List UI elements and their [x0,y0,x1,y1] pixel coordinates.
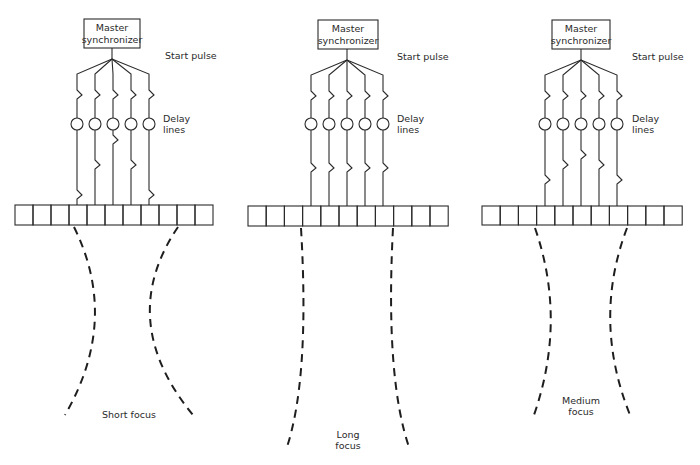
channel-lower-line [95,130,100,205]
delay-line-circle [377,118,389,130]
transducer-element [537,206,555,225]
delay-line-circle [341,118,353,130]
transducer-element [266,206,284,226]
transducer-element [412,206,430,226]
transducer-element [430,206,448,226]
channel-lower-line [131,130,136,205]
delay-line-circle [539,118,551,130]
start-pulse-label: Start pulse [632,51,684,62]
transducer-element [646,206,664,225]
master-synchronizer-label: synchronizer [551,35,612,46]
transducer-element [591,206,609,225]
transducer-element [141,205,159,225]
transducer-element [628,206,646,225]
channel-lower-line [365,130,370,206]
transducer-element [87,205,105,225]
delay-lines-label: Delay [163,113,191,124]
channel-upper-line [581,60,622,118]
delay-line-circle [107,118,119,130]
channel-upper-line [112,59,118,118]
transducer-element [500,206,518,225]
transducer-element [339,206,357,226]
transducer-element [555,206,573,225]
channel-upper-line [112,59,154,118]
channel-lower-line [617,130,622,206]
channel-lower-line [563,130,568,206]
delay-lines-label: Delay [397,113,425,124]
delay-line-circle [143,118,155,130]
delay-lines-label: lines [397,124,419,135]
master-synchronizer-label: Master [96,22,129,33]
transducer-element [284,206,302,226]
delay-line-circle [611,118,623,130]
transducer-element [375,206,393,226]
delay-line-circle [89,118,101,130]
beam-edge-left [286,228,303,450]
delay-lines-label: lines [632,124,654,135]
delay-line-circle [323,118,335,130]
transducer-element [609,206,627,225]
transducer-element [321,206,339,226]
focus-label: Medium [562,395,600,406]
transducer-element [573,206,591,225]
transducer-array [15,205,213,225]
delay-line-circle [359,118,371,130]
transducer-element [303,206,321,226]
transducer-element [394,206,412,226]
transducer-element [248,206,266,226]
start-pulse-label: Start pulse [397,51,449,62]
channel-upper-line [95,59,112,118]
channel-lower-line [599,130,604,206]
transducer-element [15,205,33,225]
transducer-array [248,206,448,226]
transducer-element [518,206,536,225]
delay-line-circle [557,118,569,130]
delay-line-circle [593,118,605,130]
focus-label: focus [568,406,593,417]
beam-edge-left [65,227,95,415]
channel-upper-line [563,60,581,118]
channel-lower-line [149,130,154,205]
transducer-element [195,205,213,225]
delay-line-circle [125,118,137,130]
channel-upper-line [329,60,347,118]
transducer-element [105,205,123,225]
transducer-element [159,205,177,225]
channel-lower-line [581,130,586,206]
master-synchronizer-label: Master [332,23,365,34]
master-synchronizer-label: synchronizer [318,35,379,46]
transducer-array [482,206,682,225]
transducer-element [177,205,195,225]
start-pulse-label: Start pulse [165,50,217,61]
channel-lower-line [77,130,82,205]
channel-lower-line [545,130,550,206]
channel-lower-line [113,130,118,205]
delay-line-circle [575,118,587,130]
channel-upper-line [347,60,388,118]
transducer-element [69,205,87,225]
master-synchronizer-label: Master [565,23,598,34]
panel-long-focus: MastersynchronizerStart pulseDelaylinesL… [248,20,449,451]
beam-edge-right [391,228,410,450]
transducer-element [51,205,69,225]
delay-lines-label: Delay [632,113,660,124]
beam-focusing-diagram: MastersynchronizerStart pulseDelaylinesS… [0,0,700,465]
channel-lower-line [311,130,316,206]
transducer-element [357,206,375,226]
beam-edge-right [150,227,193,415]
beam-edge-right [610,228,630,415]
focus-label: Long [337,429,360,440]
transducer-element [482,206,500,225]
panel-short-focus: MastersynchronizerStart pulseDelaylinesS… [15,19,217,420]
master-synchronizer-label: synchronizer [82,34,143,45]
focus-label: focus [335,440,360,451]
transducer-element [664,206,682,225]
beam-edge-left [534,228,551,415]
delay-line-circle [71,118,83,130]
channel-lower-line [347,130,352,206]
channel-upper-line [347,60,352,118]
focus-label: Short focus [102,409,156,420]
channel-lower-line [329,130,334,206]
channel-upper-line [581,60,586,118]
channel-lower-line [383,130,388,206]
